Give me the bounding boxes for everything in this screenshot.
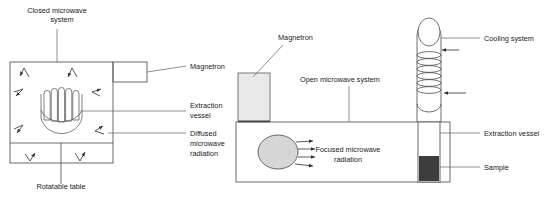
condenser-bulb	[418, 18, 440, 46]
closed-magnetron-box	[113, 62, 147, 82]
sample-block	[419, 156, 439, 181]
magnetron-leader-right	[253, 45, 283, 77]
focused-label-line2: radiation	[334, 155, 362, 164]
rotatable-table-label: Rotatable table	[36, 182, 85, 191]
open-extraction-vessel-label: Extraction vessel	[484, 129, 540, 138]
cooling-coil	[417, 52, 441, 94]
diffused-label-line2: microwave	[190, 139, 225, 148]
source-disc	[258, 135, 298, 169]
magnetron-leader-left	[147, 66, 186, 72]
extraction-vessel-label-line2: vessel	[190, 111, 211, 120]
closed-system-title-line2: system	[50, 15, 73, 24]
closed-magnetron-label: Magnetron	[190, 62, 225, 71]
open-extraction-vessel	[418, 122, 440, 182]
closed-extraction-vessel	[41, 87, 82, 133]
focused-microwave-source	[258, 135, 315, 169]
vessel-tubes	[44, 87, 79, 122]
open-system-label: Open microwave system	[300, 75, 380, 84]
diffused-radiation-arrows	[14, 68, 104, 161]
cooling-system-label: Cooling system	[484, 34, 534, 43]
open-magnetron-box	[238, 73, 270, 121]
closed-system-title-line1: Closed microwave	[27, 6, 87, 15]
extraction-vessel-label-line1: Extraction	[190, 101, 222, 110]
cooling-system	[417, 18, 466, 122]
vessel-body-outline	[41, 94, 82, 134]
sample-label: Sample	[484, 163, 509, 172]
open-magnetron-label: Magnetron	[278, 33, 313, 42]
condenser-bottom-arc	[417, 104, 441, 112]
diffused-label-line1: Diffused	[190, 129, 217, 138]
closed-system-group: Closed microwave system Magnetron Extrac…	[10, 6, 225, 191]
focused-label-line1: Focused microwave	[316, 145, 381, 154]
closed-chamber-box	[10, 62, 113, 163]
diffused-label-line3: radiation	[190, 149, 218, 158]
open-system-group: Magnetron Open microwave system Focused …	[236, 18, 540, 182]
microwave-systems-figure: Closed microwave system Magnetron Extrac…	[0, 0, 553, 199]
